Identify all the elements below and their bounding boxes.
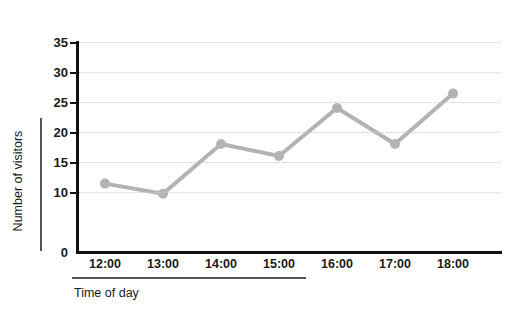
y-axis-tick-labels: 0101520253035 [22, 0, 68, 313]
gridline-25 [78, 102, 500, 103]
y-axis-title: Number of visitors [11, 115, 25, 247]
y-tick-label-0: 0 [32, 245, 68, 260]
data-point-1600 [332, 103, 342, 113]
x-tick-label-1500: 15:00 [247, 257, 311, 271]
data-point-1800 [448, 89, 458, 99]
gridline-35 [78, 42, 500, 43]
x-tick-label-1600: 16:00 [305, 257, 369, 271]
data-point-1200 [100, 179, 110, 189]
y-tick-mark-35 [70, 42, 77, 44]
y-tick-mark-30 [70, 72, 77, 74]
y-tick-mark-10 [70, 192, 77, 194]
x-axis-title: Time of day [74, 286, 139, 300]
y-tick-label-15: 15 [32, 155, 68, 170]
y-axis-title-wrap: Number of visitors [8, 118, 28, 250]
x-tick-label-1200: 12:00 [73, 257, 137, 271]
line-series-svg [78, 42, 500, 252]
y-tick-label-25: 25 [32, 95, 68, 110]
y-axis-title-rule [40, 118, 42, 251]
data-point-1400 [216, 139, 226, 149]
plot-area [78, 42, 500, 252]
y-tick-label-35: 35 [32, 35, 68, 50]
gridline-30 [78, 72, 500, 73]
data-point-1700 [390, 139, 400, 149]
y-tick-label-30: 30 [32, 65, 68, 80]
data-point-1500 [274, 151, 284, 161]
x-tick-label-1400: 14:00 [189, 257, 253, 271]
y-tick-label-20: 20 [32, 125, 68, 140]
x-axis-title-rule [72, 277, 306, 279]
y-tick-mark-25 [70, 102, 77, 104]
series-line [105, 94, 453, 194]
x-tick-label-1700: 17:00 [363, 257, 427, 271]
gridline-15 [78, 162, 500, 163]
y-tick-mark-20 [70, 132, 77, 134]
y-tick-label-10: 10 [32, 185, 68, 200]
x-axis-line [76, 251, 502, 254]
chart-screenshot: 0101520253035 12:0013:0014:0015:0016:001… [0, 0, 525, 313]
gridline-10 [78, 192, 500, 193]
x-tick-label-1800: 18:00 [421, 257, 485, 271]
y-tick-mark-15 [70, 162, 77, 164]
data-point-1300 [158, 189, 168, 199]
x-tick-label-1300: 13:00 [131, 257, 195, 271]
gridline-20 [78, 132, 500, 133]
